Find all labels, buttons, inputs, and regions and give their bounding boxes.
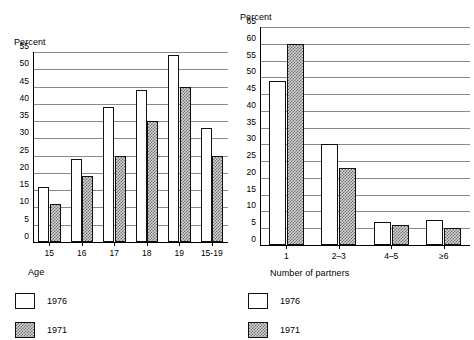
x-axis-tickmark bbox=[147, 242, 148, 246]
legend-swatch-1971 bbox=[248, 322, 268, 338]
y-axis-tick-label: 45 bbox=[9, 77, 29, 86]
y-axis-tick-label: 50 bbox=[238, 67, 256, 76]
x-axis-tickmark bbox=[49, 242, 50, 246]
y-axis-tick-label: 40 bbox=[9, 94, 29, 103]
y-axis-tick-label: 10 bbox=[9, 197, 29, 206]
bar-1976-2-3 bbox=[321, 144, 338, 245]
x-axis-tick-label: 2–3 bbox=[313, 251, 366, 261]
bar-1971-4-5 bbox=[392, 225, 409, 245]
x-axis-tickmark bbox=[114, 242, 115, 246]
legend-label-1976: 1976 bbox=[47, 296, 67, 306]
y-axis-tick-label: 0 bbox=[9, 232, 29, 241]
y-axis-tick-label: 15 bbox=[238, 185, 256, 194]
legend-label-1971: 1971 bbox=[280, 325, 300, 335]
bar-1976-15 bbox=[38, 187, 49, 242]
gridline bbox=[33, 156, 228, 157]
x-axis-tickmark bbox=[391, 245, 392, 249]
x-axis-tick-label: 4–5 bbox=[365, 251, 418, 261]
y-axis-tick-label: 35 bbox=[238, 118, 256, 127]
bar-1976-19 bbox=[168, 55, 179, 242]
bar-1976-17 bbox=[103, 107, 114, 242]
bar-1971-19 bbox=[180, 87, 191, 242]
gridline bbox=[33, 190, 228, 191]
right-legend-item-1976: 1976 bbox=[248, 293, 300, 309]
y-axis-tick-label: 55 bbox=[9, 42, 29, 51]
y-axis-tick-label: 35 bbox=[9, 111, 29, 120]
y-axis-tick-label: 25 bbox=[9, 146, 29, 155]
partners-plot-area: 0510152025303540455055606512–34–5≥6 bbox=[260, 27, 470, 245]
gridline bbox=[260, 27, 470, 28]
bar-1971-2-3 bbox=[339, 168, 356, 245]
bar-1971-16 bbox=[82, 176, 93, 242]
legend-swatch-1971 bbox=[15, 322, 35, 338]
y-axis-tick-label: 40 bbox=[238, 101, 256, 110]
left-legend-item-1976: 1976 bbox=[15, 293, 67, 309]
x-axis-tickmark bbox=[286, 245, 287, 249]
y-axis-tick-label: 50 bbox=[9, 59, 29, 68]
x-axis-tickmark bbox=[179, 242, 180, 246]
y-axis-tick-label: 45 bbox=[238, 84, 256, 93]
y-axis-tick-label: 5 bbox=[238, 218, 256, 227]
legend-label-1971: 1971 bbox=[47, 325, 67, 335]
y-axis-tick-label: 55 bbox=[238, 51, 256, 60]
x-axis-tick-label: ≥6 bbox=[418, 251, 471, 261]
left-legend-item-1971: 1971 bbox=[15, 322, 67, 338]
bar-1971-1 bbox=[287, 44, 304, 245]
bar-1971->=6 bbox=[444, 228, 461, 245]
gridline bbox=[33, 52, 228, 53]
bar-1976-15-19 bbox=[201, 128, 212, 242]
y-axis-tick-label: 60 bbox=[238, 34, 256, 43]
y-axis-tick-label: 5 bbox=[9, 215, 29, 224]
y-axis-line bbox=[260, 27, 261, 245]
left-x-axis-title: Age bbox=[28, 267, 44, 277]
y-axis-tick-label: 30 bbox=[238, 134, 256, 143]
gridline bbox=[33, 225, 228, 226]
gridline bbox=[33, 69, 228, 70]
axis-baseline bbox=[33, 242, 228, 243]
gridline bbox=[33, 104, 228, 105]
x-axis-tickmark bbox=[82, 242, 83, 246]
x-axis-tick-label: 18 bbox=[131, 248, 164, 258]
legend-label-1976: 1976 bbox=[280, 296, 300, 306]
x-axis-tick-label: 1 bbox=[260, 251, 313, 261]
legend-swatch-1976 bbox=[248, 293, 268, 309]
x-axis-tickmark bbox=[339, 245, 340, 249]
y-axis-tick-label: 25 bbox=[238, 151, 256, 160]
legend-swatch-1976 bbox=[15, 293, 35, 309]
y-axis-tick-label: 10 bbox=[238, 201, 256, 210]
gridline bbox=[33, 138, 228, 139]
x-axis-tick-label: 16 bbox=[66, 248, 99, 258]
partners-chart-panel: Percent 0510152025303540455055606512–34–… bbox=[232, 0, 474, 340]
right-x-axis-title: Number of partners bbox=[270, 268, 349, 278]
right-legend-item-1971: 1971 bbox=[248, 322, 300, 338]
bar-1976-1 bbox=[269, 81, 286, 245]
y-axis-tick-label: 65 bbox=[238, 17, 256, 26]
bar-1976-4-5 bbox=[374, 222, 391, 245]
bar-1976-16 bbox=[71, 159, 82, 242]
bar-1976-18 bbox=[136, 90, 147, 242]
y-axis-tick-label: 20 bbox=[9, 163, 29, 172]
x-axis-tick-label: 17 bbox=[98, 248, 131, 258]
age-chart-panel: Percent 05101520253035404550551516171819… bbox=[0, 0, 232, 340]
y-axis-tick-label: 15 bbox=[9, 180, 29, 189]
axis-baseline bbox=[260, 245, 470, 246]
bar-1976->=6 bbox=[426, 220, 443, 245]
gridline bbox=[33, 207, 228, 208]
y-axis-tick-label: 30 bbox=[9, 128, 29, 137]
gridline bbox=[33, 87, 228, 88]
bar-1971-17 bbox=[115, 156, 126, 242]
gridline bbox=[33, 173, 228, 174]
y-axis-tick-label: 0 bbox=[238, 235, 256, 244]
x-axis-tick-label: 19 bbox=[163, 248, 196, 258]
x-axis-tick-label: 15 bbox=[33, 248, 66, 258]
x-axis-tickmark bbox=[212, 242, 213, 246]
gridline bbox=[33, 121, 228, 122]
age-plot-area: 0510152025303540455055151617181915-19 bbox=[33, 52, 228, 242]
bar-1971-15 bbox=[50, 204, 61, 242]
x-axis-tick-label: 15-19 bbox=[196, 248, 229, 258]
y-axis-tick-label: 20 bbox=[238, 168, 256, 177]
bar-1971-15-19 bbox=[212, 156, 223, 242]
y-axis-line bbox=[33, 52, 34, 242]
x-axis-tickmark bbox=[444, 245, 445, 249]
bar-1971-18 bbox=[147, 121, 158, 242]
